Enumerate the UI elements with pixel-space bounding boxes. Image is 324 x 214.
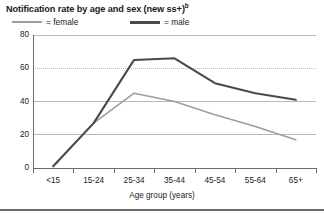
series-line-female [53,93,296,166]
x-axis-label-6: 65+ [289,176,303,185]
x-axis-tick-7 [316,168,317,173]
x-axis-label-5: 55-64 [245,176,266,185]
plot-area [33,35,316,168]
x-axis-line [33,168,316,169]
y-axis-tick-20: 20 [5,131,29,139]
x-axis-tick-4 [195,168,196,173]
x-axis-label-4: 45-54 [204,176,225,185]
series-lines [33,35,316,168]
x-axis-tick-5 [235,168,236,173]
y-axis-tick-60: 60 [5,64,29,72]
y-axis-tick-40: 40 [5,98,29,106]
x-axis-label-1: 15-24 [83,176,104,185]
y-axis-tick-80: 80 [5,31,29,39]
x-axis-title: Age group (years) [0,191,324,200]
x-axis-tick-0 [33,168,34,173]
x-axis-tick-6 [276,168,277,173]
y-axis-line [33,35,34,169]
x-axis-tick-1 [73,168,74,173]
x-axis-label-0: <15 [46,176,60,185]
x-axis-tick-2 [114,168,115,173]
footer-rule [0,209,324,211]
y-axis-tick-0: 0 [5,164,29,172]
x-axis-label-3: 35-44 [164,176,185,185]
x-axis-tick-3 [154,168,155,173]
series-line-male [53,58,296,166]
chart-figure: Notification rate by age and sex (new ss… [0,0,324,214]
x-axis-label-2: 25-34 [124,176,145,185]
